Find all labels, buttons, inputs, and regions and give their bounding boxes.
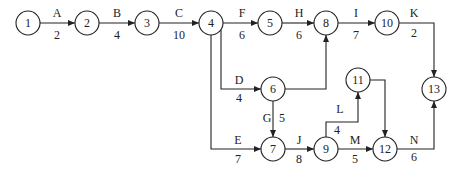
duration-B: 4	[114, 28, 120, 42]
node-4: 4	[199, 11, 223, 35]
node-12: 12	[373, 137, 397, 161]
duration-J: 8	[296, 152, 302, 166]
label-M: M	[350, 133, 361, 147]
duration-D: 4	[236, 91, 242, 105]
svg-text:11: 11	[352, 73, 364, 87]
node-10: 10	[375, 11, 399, 35]
duration-N: 6	[411, 150, 417, 164]
label-L: L	[336, 102, 343, 116]
label-C: C	[175, 6, 183, 20]
svg-text:13: 13	[428, 82, 440, 96]
duration-A: 2	[54, 28, 60, 42]
svg-text:4: 4	[208, 16, 214, 30]
duration-G: 5	[279, 111, 285, 125]
node-9: 9	[314, 137, 338, 161]
node-5: 5	[258, 11, 282, 35]
edge-dummy-6-8	[285, 35, 326, 89]
label-N: N	[410, 133, 419, 147]
node-8: 8	[314, 11, 338, 35]
node-2: 2	[75, 11, 99, 35]
svg-text:8: 8	[323, 16, 329, 30]
svg-text:12: 12	[379, 142, 391, 156]
label-A: A	[53, 6, 62, 20]
svg-text:7: 7	[270, 142, 276, 156]
svg-text:1: 1	[25, 16, 31, 30]
svg-text:5: 5	[267, 16, 273, 30]
duration-H: 6	[296, 28, 302, 42]
svg-text:2: 2	[84, 16, 90, 30]
node-11: 11	[346, 68, 370, 92]
label-G: G	[263, 111, 272, 125]
label-J: J	[297, 133, 302, 147]
svg-text:3: 3	[144, 16, 150, 30]
node-13: 13	[422, 77, 446, 101]
duration-M: 5	[352, 152, 358, 166]
network-svg: A 2 B 4 C 10 F 6 H 6 I 7 K 2 D 4 E 7 G 5…	[0, 0, 458, 175]
label-H: H	[295, 6, 304, 20]
duration-C: 10	[173, 28, 185, 42]
label-K: K	[410, 6, 419, 20]
svg-text:9: 9	[323, 142, 329, 156]
edge-dummy-11-12	[370, 80, 385, 137]
svg-text:6: 6	[270, 82, 276, 96]
label-D: D	[235, 73, 244, 87]
duration-L: 4	[334, 123, 340, 137]
label-F: F	[239, 6, 246, 20]
label-I: I	[354, 6, 358, 20]
node-1: 1	[16, 11, 40, 35]
duration-E: 7	[235, 152, 241, 166]
label-E: E	[234, 133, 241, 147]
node-7: 7	[261, 137, 285, 161]
duration-F: 6	[239, 28, 245, 42]
network-diagram: A 2 B 4 C 10 F 6 H 6 I 7 K 2 D 4 E 7 G 5…	[0, 0, 458, 175]
svg-text:10: 10	[381, 16, 393, 30]
label-B: B	[113, 6, 121, 20]
node-3: 3	[135, 11, 159, 35]
duration-I: 7	[353, 28, 359, 42]
node-6: 6	[261, 77, 285, 101]
duration-K: 2	[411, 26, 417, 40]
